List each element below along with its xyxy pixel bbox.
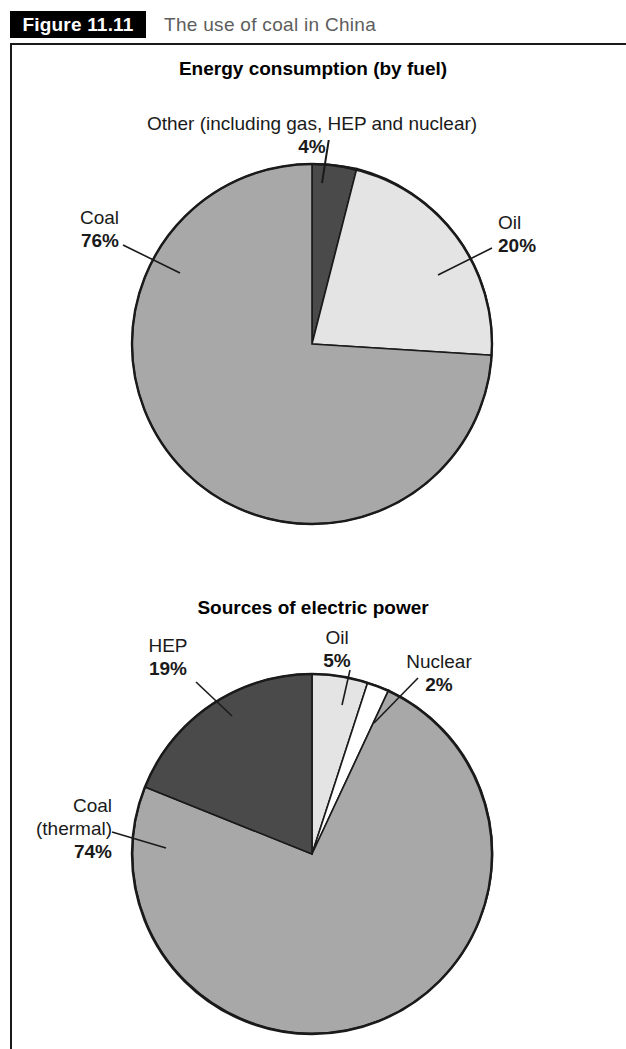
figure-caption: The use of coal in China	[164, 11, 376, 38]
figure-header: Figure 11.11 The use of coal in China	[0, 0, 626, 46]
chart-2-pie	[0, 650, 626, 1049]
chart-2-label-oil-name: Oil	[302, 626, 372, 649]
chart-2-title: Sources of electric power	[0, 597, 626, 619]
header-divider-rule	[10, 43, 626, 45]
chart-1-label-other-name: Other (including gas, HEP and nuclear)	[112, 112, 512, 135]
figure-number-badge: Figure 11.11	[10, 11, 146, 38]
chart-1-title: Energy consumption (by fuel)	[0, 58, 626, 80]
chart-1-pie	[0, 140, 626, 540]
